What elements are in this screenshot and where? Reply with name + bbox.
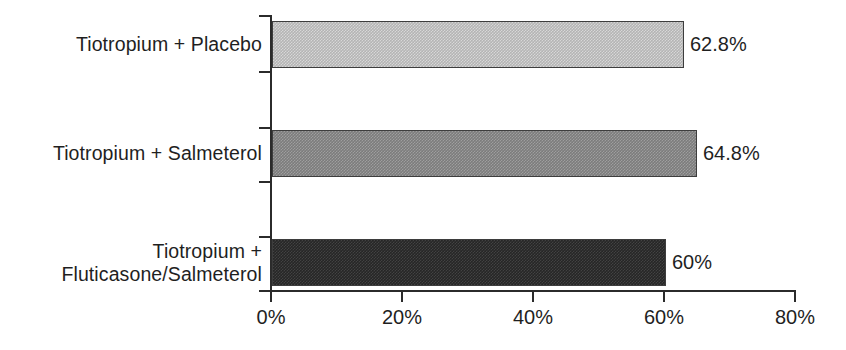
bar-tiotropium-placebo bbox=[272, 21, 684, 68]
x-axis-tick bbox=[532, 291, 534, 302]
bar-chart: Tiotropium + Placebo Tiotropium + Salmet… bbox=[0, 0, 846, 350]
category-label-line: Tiotropium + bbox=[61, 240, 262, 263]
x-axis-tick-label-0: 0% bbox=[257, 305, 286, 329]
bar-tiotropium-fluticasone-salmeterol bbox=[272, 239, 666, 286]
y-axis-tick bbox=[259, 15, 271, 17]
y-axis-tick bbox=[259, 127, 271, 129]
plot-area: 62.8% 64.8% 60% 0% 20% 40% 60% 80% bbox=[270, 0, 846, 350]
x-axis-tick bbox=[270, 291, 272, 302]
category-label-line: Tiotropium + Salmeterol bbox=[53, 142, 262, 165]
x-axis-tick-label-60: 60% bbox=[644, 305, 684, 329]
y-axis-tick bbox=[259, 71, 271, 73]
x-axis-tick-label-20: 20% bbox=[382, 305, 422, 329]
bar-value-label-tiotropium-placebo: 62.8% bbox=[690, 32, 747, 56]
x-axis-tick-label-40: 40% bbox=[513, 305, 553, 329]
y-axis-tick bbox=[259, 181, 271, 183]
category-label-line: Fluticasone/Salmeterol bbox=[61, 263, 262, 286]
bar-value-label-tiotropium-fluticasone-salmeterol: 60% bbox=[672, 250, 712, 274]
bar-value-label-tiotropium-salmeterol: 64.8% bbox=[703, 141, 760, 165]
category-label-tiotropium-placebo: Tiotropium + Placebo bbox=[76, 33, 262, 56]
x-axis-tick bbox=[401, 291, 403, 302]
y-axis-tick bbox=[259, 236, 271, 238]
category-label-tiotropium-salmeterol: Tiotropium + Salmeterol bbox=[53, 142, 262, 165]
x-axis-tick bbox=[794, 291, 796, 302]
category-label-tiotropium-fluticasone-salmeterol: Tiotropium + Fluticasone/Salmeterol bbox=[61, 240, 262, 286]
x-axis-tick bbox=[663, 291, 665, 302]
category-label-line: Tiotropium + Placebo bbox=[76, 33, 262, 56]
x-axis-tick-label-80: 80% bbox=[775, 305, 815, 329]
bar-tiotropium-salmeterol bbox=[272, 130, 697, 177]
